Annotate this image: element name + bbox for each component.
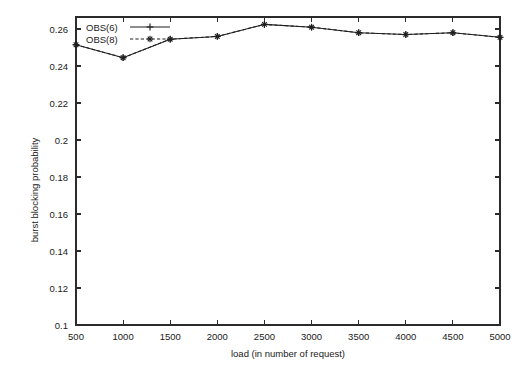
- x-tick-label: 3500: [348, 331, 369, 342]
- line-chart-plot: 500100015002000250030003500400045005000 …: [0, 0, 531, 382]
- y-tick-label: 0.26: [50, 24, 69, 35]
- x-axis-title: load (in number of request): [231, 348, 345, 359]
- x-tick-label: 1500: [160, 331, 181, 342]
- plot-frame: [76, 17, 500, 325]
- chart-legend: OBS(6)OBS(8): [86, 22, 170, 45]
- x-tick-label: 2000: [207, 331, 228, 342]
- y-axis-title: burst blocking probability: [29, 137, 40, 242]
- x-tick-label: 3000: [301, 331, 322, 342]
- series-line: [76, 24, 500, 57]
- y-axis-ticks: [76, 29, 500, 325]
- legend-label: OBS(8): [86, 34, 118, 45]
- y-tick-label: 0.16: [50, 209, 69, 220]
- x-axis-tick-labels: 500100015002000250030003500400045005000: [68, 331, 511, 342]
- chart-figure: 500100015002000250030003500400045005000 …: [0, 0, 531, 382]
- x-tick-label: 4500: [442, 331, 463, 342]
- series-line: [76, 24, 500, 57]
- legend-label: OBS(6): [86, 22, 118, 33]
- y-tick-label: 0.2: [55, 135, 68, 146]
- y-tick-label: 0.1: [55, 320, 68, 331]
- y-tick-label: 0.14: [50, 246, 69, 257]
- y-tick-label: 0.24: [50, 61, 69, 72]
- x-tick-label: 2500: [254, 331, 275, 342]
- x-tick-label: 4000: [395, 331, 416, 342]
- plot-border: [76, 17, 500, 325]
- x-axis-ticks: [76, 17, 500, 325]
- y-tick-label: 0.12: [50, 283, 69, 294]
- x-tick-label: 5000: [489, 331, 510, 342]
- x-tick-label: 500: [68, 331, 84, 342]
- y-tick-label: 0.18: [50, 172, 69, 183]
- y-axis-tick-labels: 0.10.120.140.160.180.20.220.240.26: [50, 24, 69, 331]
- x-tick-label: 1000: [113, 331, 134, 342]
- y-tick-label: 0.22: [50, 98, 69, 109]
